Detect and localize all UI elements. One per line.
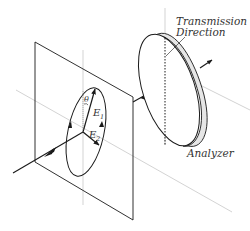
transmission-label-line2: Direction xyxy=(175,26,226,38)
e2-subscript: 2 xyxy=(95,135,100,143)
incident-ray xyxy=(13,132,83,173)
theta-label: θ xyxy=(84,95,89,104)
outgoing-ray xyxy=(200,60,212,68)
wavefront-plane xyxy=(35,42,133,220)
ellipse-arrow-right-icon xyxy=(99,121,104,127)
analyzer xyxy=(126,27,211,153)
analyzer-label: Analyzer xyxy=(186,147,235,159)
polarization-diagram: Transmission Direction Analyzer θ E 1 E … xyxy=(0,0,250,231)
incident-arrow-icon xyxy=(44,148,54,157)
e1-subscript: 1 xyxy=(100,113,104,121)
